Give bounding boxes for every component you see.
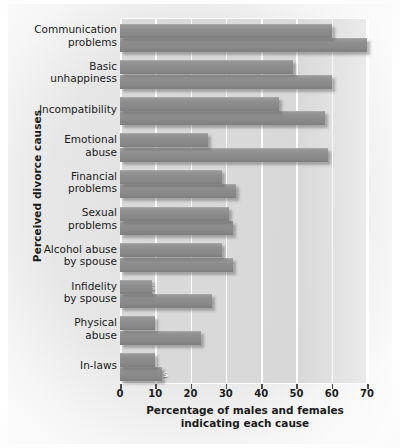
gridline xyxy=(367,19,369,383)
bar-males[interactable] xyxy=(120,316,155,330)
category-label-line: by spouse xyxy=(0,292,117,305)
x-axis-tick-label: 50 xyxy=(281,388,311,399)
category-label-line: Communication xyxy=(0,23,117,36)
bar-group: MalesFemales xyxy=(120,312,366,349)
plot-area: MalesFemalesMalesFemalesMalesFemalesMale… xyxy=(120,18,367,384)
x-axis-tick-label: 20 xyxy=(176,388,206,399)
category-label: Emotionalabuse xyxy=(0,133,117,158)
bar-group: MalesFemales xyxy=(120,239,366,276)
category-label: Communicationproblems xyxy=(0,23,117,48)
bar-females[interactable] xyxy=(120,75,332,89)
category-label-line: Alcohol abuse xyxy=(0,243,117,256)
category-label-line: problems xyxy=(0,36,117,49)
category-label: Incompatibility xyxy=(0,103,117,116)
bar-group: MalesFemales xyxy=(120,275,366,312)
category-label: Infidelityby spouse xyxy=(0,280,117,305)
bar-group: MalesFemales xyxy=(120,129,366,166)
bar-males[interactable] xyxy=(120,133,208,147)
category-label-line: Basic xyxy=(0,60,117,73)
x-axis-tick-label: 30 xyxy=(211,388,241,399)
category-label: Sexualproblems xyxy=(0,206,117,231)
category-label-line: abuse xyxy=(0,146,117,159)
x-axis-title: Percentage of males and females indicati… xyxy=(110,404,380,430)
bar-males[interactable] xyxy=(120,60,293,74)
bar-group: MalesFemales xyxy=(120,202,366,239)
category-label-line: Physical xyxy=(0,316,117,329)
x-axis-tick-label: 60 xyxy=(317,388,347,399)
bar-females[interactable] xyxy=(120,367,162,381)
bar-males[interactable] xyxy=(120,280,152,294)
bar-males[interactable] xyxy=(120,207,229,221)
x-axis-tick-label: 70 xyxy=(352,388,382,399)
x-axis-tick-label: 10 xyxy=(140,388,170,399)
x-axis-tick-label: 0 xyxy=(105,388,135,399)
bar-females[interactable] xyxy=(120,331,201,345)
bar-females[interactable] xyxy=(120,148,328,162)
category-label-line: problems xyxy=(0,219,117,232)
category-label: Physicalabuse xyxy=(0,316,117,341)
bar-group: MalesFemales xyxy=(120,165,366,202)
x-axis-tick-label: 40 xyxy=(246,388,276,399)
category-label-line: Emotional xyxy=(0,133,117,146)
x-axis-title-line1: Percentage of males and females xyxy=(146,404,344,416)
bar-males[interactable] xyxy=(120,353,155,367)
category-label-line: Financial xyxy=(0,170,117,183)
category-label-line: unhappiness xyxy=(0,72,117,85)
category-label: In-laws xyxy=(0,359,117,372)
category-label: Basicunhappiness xyxy=(0,60,117,85)
bar-group: MalesFemales xyxy=(120,348,366,385)
category-label-line: by spouse xyxy=(0,255,117,268)
bar-males[interactable] xyxy=(120,243,222,257)
bar-group: MalesFemales xyxy=(120,92,366,129)
bar-females[interactable] xyxy=(120,221,233,235)
category-label: Alcohol abuseby spouse xyxy=(0,243,117,268)
category-label-line: problems xyxy=(0,182,117,195)
bar-males[interactable] xyxy=(120,24,332,38)
category-label-line: Sexual xyxy=(0,206,117,219)
x-axis-title-line2: indicating each cause xyxy=(110,417,380,430)
category-label-line: abuse xyxy=(0,329,117,342)
bar-females[interactable] xyxy=(120,38,367,52)
bar-females[interactable] xyxy=(120,111,325,125)
bar-males[interactable] xyxy=(120,170,222,184)
bar-males[interactable] xyxy=(120,97,279,111)
category-label: Financialproblems xyxy=(0,170,117,195)
bar-females[interactable] xyxy=(120,294,212,308)
category-label-line: In-laws xyxy=(0,359,117,372)
bar-group: MalesFemales xyxy=(120,19,366,56)
bar-group: MalesFemales xyxy=(120,56,366,93)
bar-females[interactable] xyxy=(120,258,233,272)
category-label-line: Infidelity xyxy=(0,280,117,293)
category-label-line: Incompatibility xyxy=(0,103,117,116)
divorce-causes-chart-figure: Perceived divorce causes MalesFemalesMal… xyxy=(0,0,400,448)
bar-females[interactable] xyxy=(120,184,236,198)
